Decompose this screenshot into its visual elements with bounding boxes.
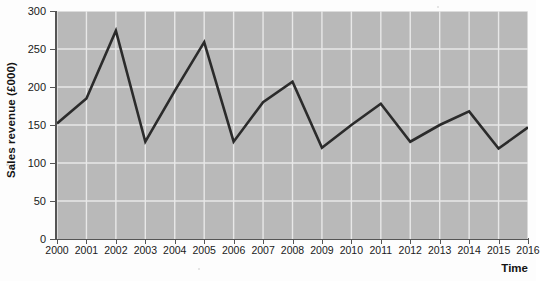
x-axis-tick-mark <box>175 240 176 244</box>
x-axis-tick-mark <box>381 240 382 244</box>
x-axis-tick-mark <box>234 240 235 244</box>
x-axis-tick-label: 2009 <box>310 244 333 256</box>
x-axis-tick-mark <box>469 240 470 244</box>
y-axis-tick-label: 100 <box>0 157 46 169</box>
y-axis-tick-label: 250 <box>0 43 46 55</box>
x-axis-tick-label: 2013 <box>428 244 451 256</box>
x-axis-tick-mark <box>116 240 117 244</box>
x-axis-tick-label: 2010 <box>340 244 363 256</box>
x-axis-tick-label: 2008 <box>281 244 304 256</box>
x-axis-tick-mark <box>499 240 500 244</box>
x-axis-tick-label: 2004 <box>163 244 186 256</box>
x-axis-tick-label: 2001 <box>75 244 98 256</box>
plot-svg <box>57 11 528 239</box>
x-axis-tick-mark <box>528 240 529 244</box>
x-axis-tick-label: 2006 <box>222 244 245 256</box>
y-axis-tick-label: 150 <box>0 119 46 131</box>
x-axis-title-label: Time <box>501 262 528 274</box>
x-axis-tick-label: 2002 <box>104 244 127 256</box>
x-axis-tick-mark <box>57 240 58 244</box>
grid-lines <box>57 11 528 239</box>
y-axis-tick-label: 300 <box>0 5 46 17</box>
x-axis-tick-label: 2011 <box>370 244 393 256</box>
paper-speckle <box>437 6 439 8</box>
x-axis-tick-label: 2012 <box>399 244 422 256</box>
x-axis-tick-mark <box>351 240 352 244</box>
x-axis-tick-label: 2005 <box>193 244 216 256</box>
x-axis-tick-mark <box>145 240 146 244</box>
x-axis-title: Time <box>501 262 528 274</box>
y-axis-tick-label: 50 <box>0 195 46 207</box>
x-axis-tick-label: 2016 <box>516 244 539 256</box>
x-axis-tick-mark <box>440 240 441 244</box>
paper-speckle <box>198 268 200 270</box>
plot-area <box>57 11 528 239</box>
x-axis-tick-mark <box>322 240 323 244</box>
x-axis-tick-mark <box>410 240 411 244</box>
x-axis-tick-label: 2014 <box>457 244 480 256</box>
x-axis-tick-mark <box>86 240 87 244</box>
x-axis-tick-mark <box>204 240 205 244</box>
x-axis-tick-label: 2000 <box>45 244 68 256</box>
y-axis-tick-label: 200 <box>0 81 46 93</box>
x-axis-tick-label: 2015 <box>487 244 510 256</box>
x-axis-tick-mark <box>293 240 294 244</box>
x-axis-tick-label: 2007 <box>251 244 274 256</box>
x-axis-tick-label: 2003 <box>134 244 157 256</box>
y-axis-tick-label: 0 <box>0 233 46 245</box>
x-axis-tick-mark <box>263 240 264 244</box>
